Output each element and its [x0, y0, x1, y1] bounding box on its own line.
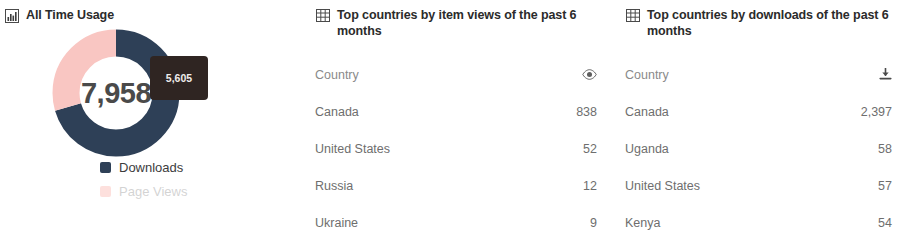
views-row-value: 12 — [583, 179, 597, 193]
legend-label-page-views: Page Views — [119, 184, 187, 199]
views-table-header-row: Country — [315, 56, 597, 93]
downloads-row-country: Kenya — [625, 216, 660, 230]
table-row[interactable]: Canada 2,397 — [625, 93, 892, 130]
top-countries-views-header: Top countries by item views of the past … — [305, 0, 615, 39]
downloads-row-value: 58 — [878, 142, 892, 156]
donut-tooltip: 5,605 — [150, 56, 208, 100]
table-row[interactable]: United States 57 — [625, 167, 892, 204]
views-table: Country Canada 838 United States 52 Russ… — [305, 39, 615, 249]
table-grid-icon — [625, 8, 640, 23]
downloads-table: Country Canada 2,397 Uganda 58 United — [615, 39, 900, 249]
table-row[interactable]: Ukraine 9 — [315, 204, 597, 241]
eye-icon — [582, 69, 597, 80]
views-header-country: Country — [315, 68, 359, 82]
usage-legend: Downloads Page Views — [0, 160, 305, 199]
downloads-row-value: 54 — [878, 216, 892, 230]
usage-donut-chart: 7,958 5,605 — [0, 23, 305, 173]
downloads-table-header-row: Country — [625, 56, 892, 93]
table-row[interactable]: Kenya 6 — [315, 241, 597, 249]
views-row-value: 9 — [590, 216, 597, 230]
views-row-country: Ukraine — [315, 216, 358, 230]
views-row-value: 52 — [583, 142, 597, 156]
legend-label-downloads: Downloads — [119, 160, 183, 175]
views-row-country: Canada — [315, 105, 359, 119]
download-icon — [879, 68, 892, 81]
all-time-usage-panel: All Time Usage 7,958 5,605 Downloads — [0, 0, 305, 249]
legend-item-page-views[interactable]: Page Views — [100, 184, 187, 199]
downloads-row-country: United States — [625, 179, 700, 193]
downloads-header-country: Country — [625, 68, 669, 82]
legend-swatch-downloads — [100, 162, 111, 173]
top-countries-downloads-panel: Top countries by downloads of the past 6… — [615, 0, 900, 249]
legend-swatch-page-views — [100, 186, 111, 197]
legend-item-downloads[interactable]: Downloads — [100, 160, 183, 175]
top-countries-views-title: Top countries by item views of the past … — [337, 7, 599, 39]
table-row[interactable]: Canada 838 — [315, 93, 597, 130]
table-row[interactable]: Uganda 58 — [625, 130, 892, 167]
table-grid-icon — [315, 8, 330, 23]
table-row[interactable]: Russia 12 — [315, 167, 597, 204]
table-row[interactable]: Turkey 49 — [625, 241, 892, 249]
bar-chart-icon — [4, 8, 19, 23]
table-row[interactable]: United States 52 — [315, 130, 597, 167]
table-row[interactable]: Kenya 54 — [625, 204, 892, 241]
downloads-row-value: 2,397 — [861, 105, 892, 119]
analytics-dashboard: All Time Usage 7,958 5,605 Downloads — [0, 0, 900, 249]
top-countries-downloads-title: Top countries by downloads of the past 6… — [647, 7, 894, 39]
all-time-usage-title: All Time Usage — [26, 7, 114, 23]
downloads-row-country: Canada — [625, 105, 669, 119]
downloads-row-value: 57 — [878, 179, 892, 193]
all-time-usage-header: All Time Usage — [0, 0, 305, 23]
views-row-value: 838 — [576, 105, 597, 119]
top-countries-views-panel: Top countries by item views of the past … — [305, 0, 615, 249]
downloads-row-country: Uganda — [625, 142, 669, 156]
views-row-country: United States — [315, 142, 390, 156]
top-countries-downloads-header: Top countries by downloads of the past 6… — [615, 0, 900, 39]
views-row-country: Russia — [315, 179, 353, 193]
